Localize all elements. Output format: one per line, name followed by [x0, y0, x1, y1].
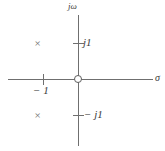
tick-mark-minus-j1	[73, 115, 84, 116]
tick-label-j1: j1	[83, 36, 92, 48]
pole-marker-lower-left: ×	[32, 110, 43, 121]
sigma-axis-label: σ	[155, 72, 160, 83]
pole-marker-upper-left: ×	[32, 38, 43, 49]
j-omega-axis-label: jω	[68, 1, 77, 11]
tick-label-minus-1: − 1	[33, 84, 49, 96]
tick-label-minus-j1: − j1	[84, 108, 103, 120]
pole-zero-plot-figure: jω σ − 1 j1 − j1 × ×	[0, 0, 165, 151]
zero-marker-origin	[74, 75, 82, 83]
